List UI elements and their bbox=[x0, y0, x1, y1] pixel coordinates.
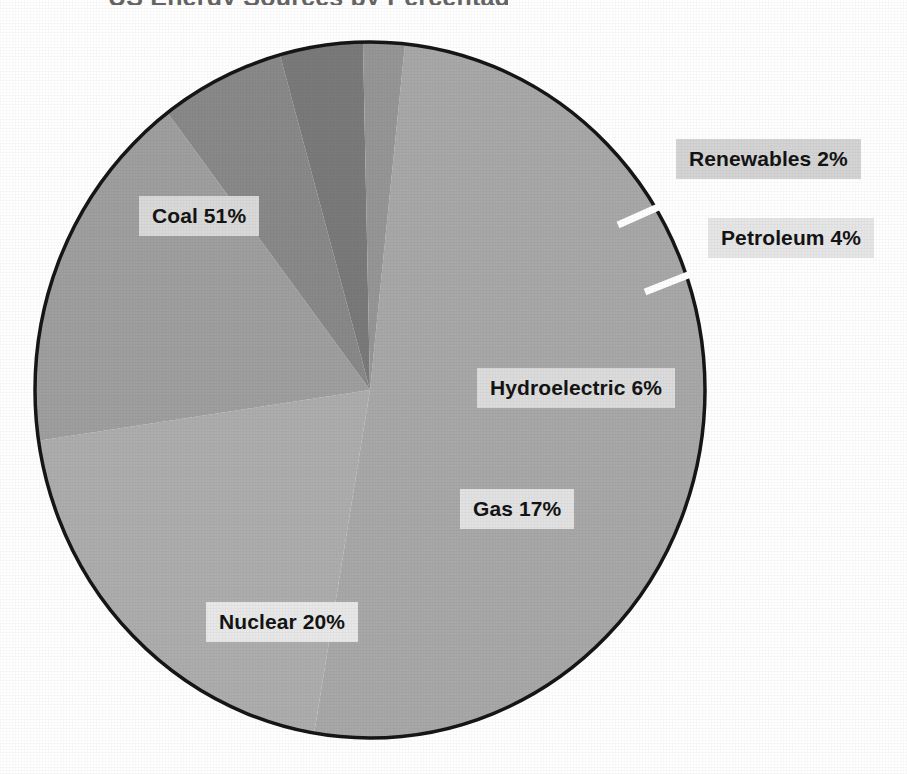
pie-label-petroleum: Petroleum 4% bbox=[708, 218, 874, 258]
pie-label-renewables: Renewables 2% bbox=[676, 139, 861, 179]
pie-chart: Coal 51% Renewables 2% Petroleum 4% Hydr… bbox=[0, 0, 907, 774]
chart-page: US Energy Sources by Percentage Coal 51% bbox=[0, 0, 907, 774]
pie-slice-nuclear[interactable] bbox=[39, 390, 370, 733]
pie-label-coal: Coal 51% bbox=[139, 196, 259, 236]
pie-chart-svg bbox=[0, 0, 907, 774]
pie-label-gas: Gas 17% bbox=[460, 489, 574, 529]
pie-label-hydroelectric: Hydroelectric 6% bbox=[477, 368, 675, 408]
pie-label-nuclear: Nuclear 20% bbox=[206, 602, 358, 642]
